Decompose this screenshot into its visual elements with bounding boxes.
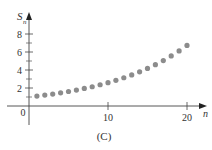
y-tick-label: 8 [17,29,22,40]
origin-label: 0 [21,107,26,118]
y-tick-label: 4 [17,65,22,76]
data-points [34,43,189,99]
y-axis-label-subscript: n [23,18,27,26]
data-point [177,48,182,53]
data-point [121,75,126,80]
data-point [34,94,39,99]
x-tick-label: 20 [182,112,192,123]
x-axis-label: n [203,108,208,119]
data-point [74,87,79,92]
axis-labels: 246810200Snn(C) [17,10,208,143]
data-point [113,78,118,83]
data-point [129,72,134,77]
y-tick-label: 6 [17,47,22,58]
data-point [42,93,47,98]
data-point [105,80,110,85]
data-point [82,86,87,91]
sequence-scatter-chart: 246810200Snn(C) [0,0,212,150]
data-point [153,62,158,67]
data-point [66,89,71,94]
data-point [98,82,103,87]
x-tick-label: 10 [103,112,113,123]
axes [7,12,207,125]
data-point [58,90,63,95]
y-tick-label: 2 [17,83,22,94]
data-point [90,84,95,89]
data-point [145,66,150,71]
data-point [50,91,55,96]
data-point [137,69,142,74]
chart-caption: (C) [97,130,112,143]
axis-ticks [25,34,187,110]
data-point [169,53,174,58]
data-point [184,43,189,48]
y-axis-arrow-icon [26,12,32,20]
data-point [161,58,166,63]
